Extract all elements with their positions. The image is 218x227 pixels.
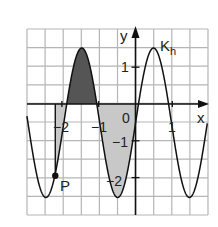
y-axis-arrow-icon xyxy=(132,26,140,38)
point-p xyxy=(52,173,58,179)
curve-label: Kh xyxy=(160,37,176,57)
x-tick-label-1: 1 xyxy=(168,119,176,135)
x-tick-label-neg1: −1 xyxy=(91,119,107,135)
y-tick-label-neg2: −2 xyxy=(106,173,122,189)
sine-graph: y x 0 Kh −2 −1 1 1 −1 −2 P xyxy=(0,0,218,227)
x-axis-arrow-icon xyxy=(198,100,209,108)
x-axis-label: x xyxy=(197,109,205,126)
y-tick-label-neg1: −1 xyxy=(112,134,128,150)
point-p-label: P xyxy=(60,177,70,194)
origin-label: 0 xyxy=(122,110,130,126)
y-axis-label: y xyxy=(120,27,128,44)
x-tick-label-neg2: −2 xyxy=(53,119,69,135)
y-tick-label-1: 1 xyxy=(121,59,129,75)
labels: y x 0 Kh −2 −1 1 1 −1 −2 P xyxy=(53,27,205,194)
